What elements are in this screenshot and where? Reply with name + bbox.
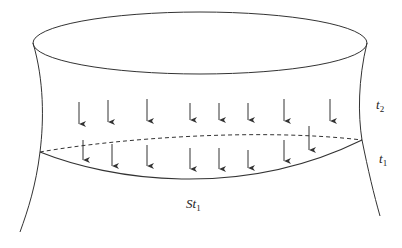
right-side-curve <box>359 43 380 216</box>
upper-arrows <box>79 99 330 124</box>
top-ellipse <box>33 12 367 74</box>
lower-arrows <box>83 126 309 169</box>
surface-front-curve <box>40 140 362 179</box>
dashed-back-curve <box>40 135 362 152</box>
label-t2: t2 <box>376 97 384 114</box>
label-surface: St1 <box>186 196 201 213</box>
cylinder-diagram: t2 t1 St1 <box>0 0 402 248</box>
label-t1: t1 <box>379 151 387 168</box>
left-side-curve <box>20 43 42 232</box>
